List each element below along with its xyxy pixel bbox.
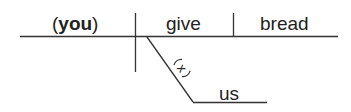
direct-object-text: bread <box>260 13 309 34</box>
subject-text: (you) <box>52 13 98 34</box>
marker-letter: x <box>174 61 190 75</box>
indirect-object-diagonal <box>147 37 193 102</box>
subject-close-paren: ) <box>92 13 98 34</box>
indirect-object-text: us <box>219 83 239 104</box>
sentence-diagram: x (you) give bread us <box>0 0 351 112</box>
verb-text: give <box>166 13 201 34</box>
subject-word: you <box>58 13 92 34</box>
